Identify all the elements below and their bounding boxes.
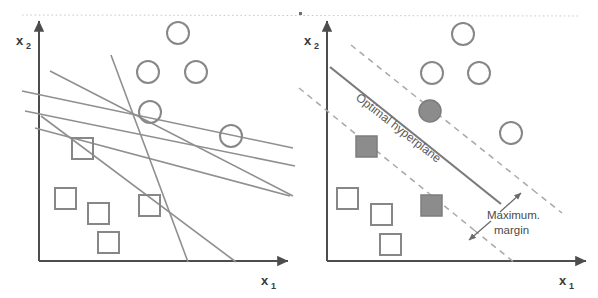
scan-speck	[299, 12, 302, 15]
left-x-axis-label-text: x	[261, 273, 269, 288]
svm-diagram-canvas: x 2 x 1	[0, 0, 598, 298]
left-y-axis-label-text: x	[16, 33, 24, 48]
right-y-axis-label-text: x	[304, 33, 312, 48]
maximum-margin-label-line2: margin	[494, 224, 529, 236]
support-vector-circle	[419, 100, 441, 122]
right-x-axis-label-text: x	[559, 273, 567, 288]
left-x-axis-label-sub: 1	[271, 281, 276, 291]
support-vector-square	[421, 195, 442, 216]
svm-figure: x 2 x 1	[0, 0, 598, 298]
right-x-axis-label-sub: 1	[569, 281, 574, 291]
maximum-margin-label-line1: Maximum.	[487, 209, 540, 221]
support-vector-square	[356, 136, 377, 157]
left-y-axis-label-sub: 2	[26, 41, 31, 51]
right-y-axis-label-sub: 2	[314, 41, 319, 51]
figure-background	[0, 0, 598, 298]
